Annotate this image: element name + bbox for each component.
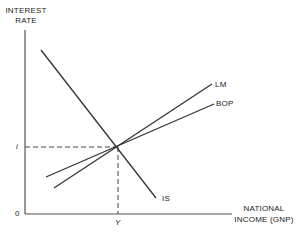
y-axis-label-line2: RATE xyxy=(4,16,48,25)
equilibrium-income-label: Y xyxy=(115,218,121,227)
is-label: IS xyxy=(162,194,170,203)
bop-curve xyxy=(46,104,214,177)
lm-label: LM xyxy=(215,80,227,89)
y-axis-label-line1: INTEREST xyxy=(4,6,48,15)
bop-label: BOP xyxy=(216,99,234,108)
x-axis-label-line2: INCOME (GNP) xyxy=(233,215,295,224)
diagram-canvas xyxy=(0,0,301,235)
equilibrium-interest-label: i xyxy=(16,142,18,151)
origin-label: 0 xyxy=(15,209,20,218)
is-curve xyxy=(41,50,156,198)
lm-curve xyxy=(54,84,212,188)
x-axis-label-line1: NATIONAL xyxy=(233,204,295,213)
